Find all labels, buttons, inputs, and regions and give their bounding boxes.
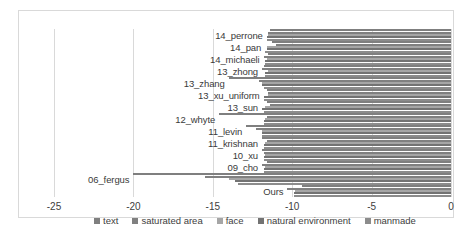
bar-row[interactable]: 12_whyte (54, 113, 451, 125)
legend-label: saturated area (141, 216, 202, 226)
legend-item-saturated-area[interactable]: saturated area (132, 216, 202, 226)
legend-item-manmade[interactable]: manmade (365, 216, 416, 226)
legend-swatch-icon (217, 218, 223, 224)
category-label-12_whyte: 12_whyte (175, 114, 215, 125)
bar-row[interactable]: Ours (54, 185, 451, 197)
chart-frame: 14_perrone14_pan14_michaeli13_zhong13_zh… (18, 10, 454, 218)
bar-segment-manmade[interactable] (294, 195, 451, 197)
legend-label: natural environment (267, 216, 351, 226)
x-tick-label: -25 (47, 201, 61, 212)
category-label-13_zhong: 13_zhong (217, 66, 258, 77)
category-label-13_xu_uniform: 13_xu_uniform (198, 90, 260, 101)
bar-rows: 14_perrone14_pan14_michaeli13_zhong13_zh… (54, 29, 451, 197)
category-label-11_krishnan: 11_krishnan (208, 138, 258, 149)
bar-row[interactable]: 14_perrone (54, 29, 451, 41)
legend-swatch-icon (132, 218, 138, 224)
bar-row[interactable]: 09_cho (54, 161, 451, 173)
gridline-0 (451, 29, 452, 197)
legend-swatch-icon (94, 218, 100, 224)
bar-row[interactable]: 14_michaeli (54, 53, 451, 65)
x-axis-tick-labels: -25-20-15-10-50 (54, 201, 451, 215)
category-label-14_michaeli: 14_michaeli (210, 54, 260, 65)
bar-row[interactable]: 11_levin (54, 125, 451, 137)
category-label-13_sun: 13_sun (227, 102, 258, 113)
category-label-Ours: Ours (263, 186, 283, 197)
category-label-13_zhang: 13_zhang (184, 78, 225, 89)
x-tick-label: 0 (448, 201, 454, 212)
category-label-06_fergus: 06_fergus (88, 174, 129, 185)
plot-area: 14_perrone14_pan14_michaeli13_zhong13_zh… (54, 29, 451, 197)
category-label-11_levin: 11_levin (208, 126, 242, 137)
legend-item-face[interactable]: face (217, 216, 244, 226)
chart-container: 14_perrone14_pan14_michaeli13_zhong13_zh… (0, 0, 472, 243)
bar-row[interactable]: 13_zhang (54, 77, 451, 89)
category-label-14_pan: 14_pan (230, 42, 261, 53)
x-tick-label: -5 (367, 201, 376, 212)
category-label-09_cho: 09_cho (227, 162, 258, 173)
bar-row[interactable]: 14_pan (54, 41, 451, 53)
chart-legend: textsaturated areafacenatural environmen… (37, 216, 472, 226)
category-label-10_xu: 10_xu (233, 150, 258, 161)
legend-swatch-icon (365, 218, 371, 224)
legend-label: text (103, 216, 118, 226)
legend-item-text[interactable]: text (94, 216, 118, 226)
bar-row[interactable]: 11_krishnan (54, 137, 451, 149)
legend-label: face (226, 216, 244, 226)
bar-row[interactable]: 06_fergus (54, 173, 451, 185)
bar-row[interactable]: 10_xu (54, 149, 451, 161)
bar-row[interactable]: 13_zhong (54, 65, 451, 77)
bar-row[interactable]: 13_xu_uniform (54, 89, 451, 101)
x-tick-label: -15 (206, 201, 220, 212)
legend-swatch-icon (258, 218, 264, 224)
legend-label: manmade (374, 216, 416, 226)
category-label-14_perrone: 14_perrone (215, 30, 263, 41)
legend-item-natural-environment[interactable]: natural environment (258, 216, 351, 226)
x-tick-label: -20 (126, 201, 140, 212)
x-tick-label: -10 (285, 201, 299, 212)
bar-row[interactable]: 13_sun (54, 101, 451, 113)
